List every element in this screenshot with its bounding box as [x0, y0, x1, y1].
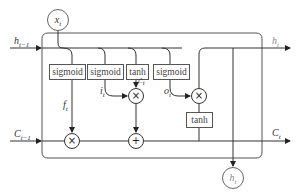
c-out-label: Ct: [272, 128, 281, 141]
lstm-wires: [0, 0, 302, 196]
input-gate-sigmoid: sigmoid: [87, 64, 124, 80]
input-gate-label: it: [100, 86, 105, 99]
output-h-node: ht: [222, 167, 244, 189]
forget-gate-sigmoid: sigmoid: [49, 64, 86, 80]
output-gate-sigmoid: sigmoid: [153, 64, 190, 80]
h-prev-label: ht−1: [14, 36, 29, 49]
cell-add-op: +: [128, 133, 144, 149]
input-x-node: xt: [47, 9, 69, 31]
h-out-label: ht: [272, 36, 279, 49]
forget-gate-label: ft: [63, 100, 68, 113]
output-gate-label: ot: [164, 86, 171, 99]
c-prev-label: Ct−1: [14, 129, 31, 142]
candidate-label: C̃t: [138, 78, 145, 87]
output-multiply-op: ×: [191, 88, 207, 104]
forget-multiply-op: ×: [64, 133, 80, 149]
cell-tanh: tanh: [186, 112, 213, 128]
input-multiply-op: ×: [128, 88, 144, 104]
